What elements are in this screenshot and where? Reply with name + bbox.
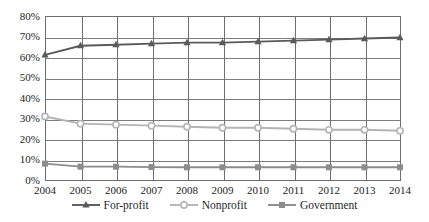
data-point [42,113,48,119]
data-point [220,164,226,170]
data-point [326,164,332,170]
y-axis-tick-label: 20% [0,134,40,145]
legend-label: Government [300,199,357,211]
y-axis-tick-label: 10% [0,154,40,165]
data-point [362,164,368,170]
legend-label: Nonprofit [202,199,247,211]
data-point [148,123,154,129]
data-point [219,125,225,131]
legend-item-for-profit[interactable]: For-profit [72,199,149,211]
data-point [77,121,83,127]
data-point [290,126,296,132]
y-axis-tick-label: 60% [0,52,40,63]
data-point [78,164,84,170]
data-point [255,164,261,170]
data-point [397,128,403,134]
data-point [361,127,367,133]
data-point [291,164,297,170]
series-for-profit [41,34,403,58]
series-layer [45,16,401,181]
series-nonprofit [42,113,403,134]
legend-label: For-profit [104,199,149,211]
data-point [397,164,403,170]
circle-icon [170,199,198,211]
y-axis-tick-label: 50% [0,72,40,83]
series-government [42,161,403,171]
y-axis-tick-label: 40% [0,93,40,104]
data-point [113,164,119,170]
chart-legend: For-profitNonprofitGovernment [0,199,429,211]
data-point [113,122,119,128]
y-axis-tick-label: 70% [0,31,40,42]
data-point [184,124,190,130]
legend-item-government[interactable]: Government [268,199,357,211]
data-point [149,164,155,170]
data-point [326,127,332,133]
y-axis-tick-label: 30% [0,113,40,124]
legend-item-nonprofit[interactable]: Nonprofit [170,199,247,211]
triangle-icon [72,199,100,211]
data-point [42,161,48,167]
line-chart: 0%10%20%30%40%50%60%70%80% 2004200520062… [0,0,429,222]
data-point [255,125,261,131]
square-icon [268,199,296,211]
y-axis-tick-label: 80% [0,11,40,22]
x-axis-tick-label: 2014 [378,185,422,196]
data-point [184,164,190,170]
